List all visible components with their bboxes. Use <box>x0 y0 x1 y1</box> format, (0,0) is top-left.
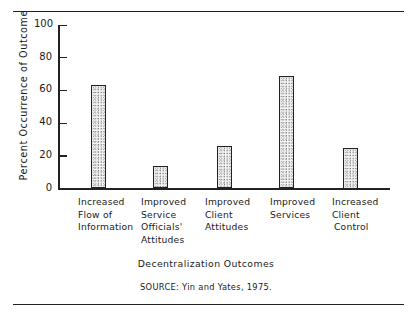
y-axis <box>58 25 60 189</box>
bar <box>279 76 294 189</box>
category-label: IncreasedFlow ofInformation <box>78 196 148 234</box>
bar <box>91 85 106 188</box>
bar <box>217 146 232 189</box>
y-tick-label: 0 <box>22 182 52 193</box>
top-rule <box>13 11 404 13</box>
bottom-rule <box>13 304 404 306</box>
category-label: ImprovedServiceOfficials'Attitudes <box>141 196 211 246</box>
y-tick <box>58 57 67 58</box>
y-tick <box>58 90 67 91</box>
y-tick-label: 40 <box>22 116 52 127</box>
y-tick <box>58 25 67 26</box>
bar <box>343 148 358 189</box>
y-axis-label: Percent Occurrence of Outcome <box>18 47 29 181</box>
y-tick <box>58 123 67 124</box>
x-axis-title: Decentralization Outcomes <box>0 258 412 269</box>
category-label: IncreasedClientControl <box>332 196 402 234</box>
y-tick-label: 100 <box>23 18 53 29</box>
y-tick <box>58 188 67 189</box>
category-label: ImprovedServices <box>270 196 340 221</box>
y-tick-label: 20 <box>22 149 52 160</box>
y-tick-label: 80 <box>22 51 52 62</box>
source-note: SOURCE: Yin and Yates, 1975. <box>0 282 412 292</box>
category-label: ImprovedClientAttitudes <box>205 196 275 234</box>
y-tick <box>58 155 67 156</box>
y-tick-label: 60 <box>22 83 52 94</box>
bar <box>153 166 168 189</box>
